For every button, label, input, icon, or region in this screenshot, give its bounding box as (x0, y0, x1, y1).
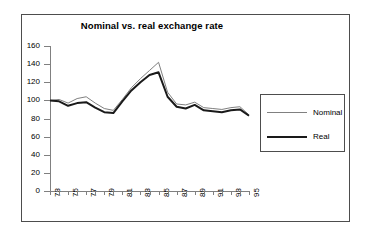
x-axis-label: 95 (252, 188, 261, 197)
y-axis-label: 0 (16, 186, 40, 195)
y-axis-label: 120 (16, 77, 40, 86)
chart-legend: NominalReal (260, 94, 345, 152)
chart-title: Nominal vs. real exchange rate (22, 20, 282, 31)
legend-item-real[interactable]: Real (267, 131, 341, 143)
y-axis-label: 60 (16, 132, 40, 141)
y-axis-label: 160 (16, 41, 40, 50)
y-axis-label: 40 (16, 150, 40, 159)
legend-label: Real (313, 131, 329, 143)
y-axis-label: 80 (16, 114, 40, 123)
legend-item-nominal[interactable]: Nominal (267, 107, 341, 119)
legend-label: Nominal (313, 107, 342, 119)
y-axis-label: 140 (16, 59, 40, 68)
y-axis-label: 20 (16, 168, 40, 177)
series-line-nominal (50, 62, 249, 115)
legend-swatch-nominal (267, 112, 307, 113)
series-plot (50, 46, 250, 192)
y-axis-label: 100 (16, 95, 40, 104)
chart-frame: Nominal vs. real exchange rate 020406080… (21, 14, 350, 222)
legend-swatch-real (267, 136, 307, 138)
